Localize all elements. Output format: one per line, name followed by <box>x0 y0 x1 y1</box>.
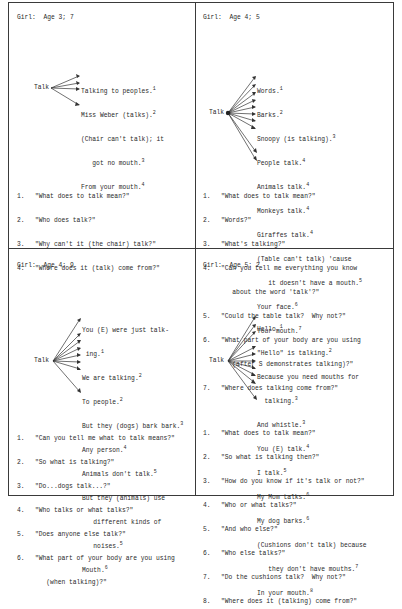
panel-age-4-9: Girl: Age 4; 9 Talk You (E) were just ta… <box>0 248 195 497</box>
response-item: You (E) were just talk- <box>82 327 183 335</box>
question-item: 3."How do you know if it's talk or not?" <box>203 478 365 486</box>
question-item: 6."Who else talks?" <box>203 550 365 558</box>
question-item: 6."What part of your body are you using <box>17 555 175 563</box>
question-item: 8."Where does it (talking) come from?" <box>203 598 365 606</box>
question-item: 5."And who else?" <box>203 526 365 534</box>
question-item: 2."So what is talking?" <box>17 459 175 467</box>
response-item: talking.3 <box>257 398 367 406</box>
question-item: 3."Do...dogs talk...?" <box>17 483 175 491</box>
response-item: People talk.4 <box>257 160 362 168</box>
response-item: Talking to peoples.1 <box>81 88 164 96</box>
response-item: We are talking.2 <box>82 375 183 383</box>
question-item: 4."Who talks or what talks?" <box>17 507 175 515</box>
center-word-talk: Talk <box>34 84 49 92</box>
response-item: Barks.2 <box>257 112 362 120</box>
question-item: 7."Do the cushions talk? Why not?" <box>203 574 365 582</box>
question-item: 2."So what is talking then?" <box>203 454 365 462</box>
question-item: (when talking)?" <box>17 579 175 587</box>
response-item: Miss Weber (talks).2 <box>81 112 164 120</box>
response-item: ing.1 <box>82 351 183 359</box>
center-word-talk: Talk <box>209 109 224 117</box>
response-item: To people.2 <box>82 399 183 407</box>
question-list: 1."Can you tell me what to talk means?" … <box>17 419 175 603</box>
panel-age-3-7: Girl: Age 3; 7 Talk Talking to peoples.1… <box>0 0 195 248</box>
question-item: 2."Words?" <box>203 217 361 225</box>
question-item: 4."Who or what talks?" <box>203 502 365 510</box>
question-item: 1."What does to talk mean?" <box>203 430 365 438</box>
question-list: 1."What does to talk mean?" 2."So what i… <box>203 414 365 609</box>
question-item: 1."Can you tell me what to talk means?" <box>17 435 175 443</box>
panel-age-4-5: Girl: Age 4; 5 Talk Words.1 Barks.2 Snoo… <box>195 0 395 248</box>
center-word-talk: Talk <box>34 357 49 365</box>
response-item: Words.1 <box>257 88 362 96</box>
question-item: 1."What does to talk mean?" <box>17 193 160 201</box>
response-item: Hello.1 <box>257 326 367 334</box>
question-item: 1."What does to talk mean?" <box>203 193 361 201</box>
response-item: (Chair can't talk); it <box>81 136 164 144</box>
question-item: 2."Who does talk?" <box>17 217 160 225</box>
center-word-talk: Talk <box>209 357 224 365</box>
response-item: Because you need mouths for <box>257 374 367 382</box>
response-item: Snoopy (is talking).3 <box>257 136 362 144</box>
panel-age-5-2: Girl: Age 5; 2 Talk Hello.1 "Hello" is t… <box>195 248 395 497</box>
response-item: got no mouth.3 <box>81 160 164 168</box>
question-item: 5."Does anyone else talk?" <box>17 531 175 539</box>
response-item: "Hello" is talking.2 <box>257 350 367 358</box>
